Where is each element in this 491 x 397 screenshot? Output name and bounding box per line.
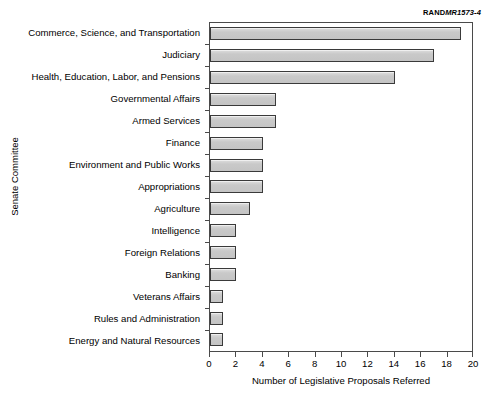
bar-row — [210, 285, 472, 307]
x-axis-tick-label: 20 — [468, 358, 479, 369]
x-axis-tick — [341, 352, 342, 357]
bar-row — [210, 23, 472, 45]
bar — [210, 268, 236, 281]
x-axis-tick — [447, 352, 448, 357]
x-axis-tick-label: 10 — [336, 358, 347, 369]
x-axis-tick — [262, 352, 263, 357]
bar — [210, 159, 263, 172]
x-axis-tick — [394, 352, 395, 357]
category-label: Governmental Affairs — [20, 88, 205, 110]
y-axis-tick — [205, 220, 209, 221]
x-axis-tick — [288, 352, 289, 357]
category-label: Appropriations — [20, 176, 205, 198]
bar — [210, 180, 263, 193]
x-axis-tick-label: 8 — [312, 358, 317, 369]
category-label: Banking — [20, 264, 205, 286]
x-axis-tick — [367, 352, 368, 357]
y-axis-tick — [205, 154, 209, 155]
y-axis-tick — [205, 88, 209, 89]
x-axis-tick — [235, 352, 236, 357]
bar-row — [210, 132, 472, 154]
bar — [210, 93, 276, 106]
category-label: Energy and Natural Resources — [20, 330, 205, 352]
category-label: Veterans Affairs — [20, 286, 205, 308]
category-label: Armed Services — [20, 110, 205, 132]
y-axis-tick-marks — [209, 22, 213, 352]
x-axis-tick-label: 12 — [362, 358, 373, 369]
bar-row — [210, 176, 472, 198]
y-axis-title-text: Senate Committee — [9, 137, 20, 216]
chart-figure: RANDMR1573-4 Senate Committee Commerce, … — [0, 0, 491, 397]
y-axis-tick — [205, 110, 209, 111]
bar — [210, 115, 276, 128]
y-axis-tick — [205, 44, 209, 45]
plot-area — [209, 22, 473, 352]
bar — [210, 49, 434, 62]
source-code-prefix: RAND — [423, 8, 445, 17]
source-code-suffix: MR1573-4 — [445, 8, 481, 17]
bar-row — [210, 307, 472, 329]
bar-row — [210, 263, 472, 285]
bar — [210, 202, 250, 215]
category-label: Finance — [20, 132, 205, 154]
bar-row — [210, 242, 472, 264]
bar-row — [210, 329, 472, 351]
bars-layer — [210, 23, 472, 351]
bar — [210, 27, 461, 40]
bar-row — [210, 154, 472, 176]
y-axis-tick — [205, 286, 209, 287]
category-label: Health, Education, Labor, and Pensions — [20, 66, 205, 88]
bar-row — [210, 198, 472, 220]
y-axis-tick — [205, 242, 209, 243]
x-axis-tick-marks — [209, 352, 473, 357]
x-axis-tick-label: 4 — [259, 358, 264, 369]
bar — [210, 246, 236, 259]
bar — [210, 137, 263, 150]
x-axis-tick-label: 14 — [388, 358, 399, 369]
x-axis-title: Number of Legislative Proposals Referred — [209, 375, 473, 386]
y-axis-category-labels: Commerce, Science, and TransportationJud… — [20, 22, 205, 352]
y-axis-tick — [205, 132, 209, 133]
category-label: Agriculture — [20, 198, 205, 220]
x-axis-tick-label: 0 — [206, 358, 211, 369]
bar-row — [210, 89, 472, 111]
x-axis-tick-label: 2 — [233, 358, 238, 369]
x-axis-tick — [209, 352, 210, 357]
bar-row — [210, 220, 472, 242]
y-axis-tick — [205, 308, 209, 309]
source-code-label: RANDMR1573-4 — [423, 8, 481, 17]
x-axis-tick-label: 18 — [441, 358, 452, 369]
x-axis-tick — [315, 352, 316, 357]
y-axis-tick — [205, 66, 209, 67]
y-axis-tick — [205, 264, 209, 265]
y-axis-tick — [205, 330, 209, 331]
y-axis-tick — [205, 176, 209, 177]
bar-row — [210, 45, 472, 67]
x-axis-tick-labels: 02468101214161820 — [209, 358, 473, 371]
category-label: Rules and Administration — [20, 308, 205, 330]
bar — [210, 224, 236, 237]
x-axis-tick — [472, 352, 473, 357]
bar-row — [210, 67, 472, 89]
x-axis-tick-label: 6 — [286, 358, 291, 369]
x-axis-tick — [420, 352, 421, 357]
category-label: Commerce, Science, and Transportation — [20, 22, 205, 44]
category-label: Foreign Relations — [20, 242, 205, 264]
bar-row — [210, 110, 472, 132]
y-axis-tick — [205, 198, 209, 199]
x-axis-tick-label: 16 — [415, 358, 426, 369]
category-label: Intelligence — [20, 220, 205, 242]
category-label: Environment and Public Works — [20, 154, 205, 176]
category-label: Judiciary — [20, 44, 205, 66]
bar — [210, 71, 395, 84]
